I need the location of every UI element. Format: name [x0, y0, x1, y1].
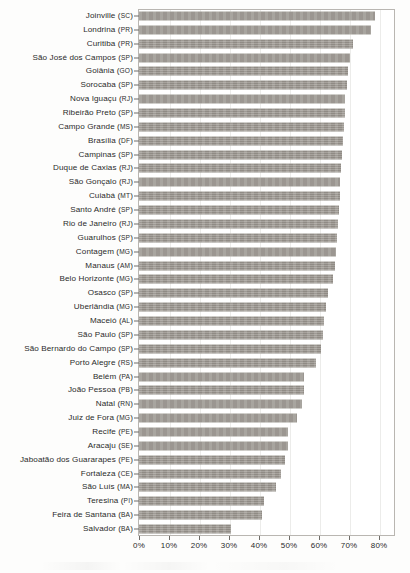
- bar-row: Santo André (SP): [0, 203, 410, 217]
- city-name: São Bernardo do Campo: [24, 344, 116, 353]
- bar: [139, 136, 343, 145]
- bar: [139, 219, 338, 228]
- x-tick-label: 20%: [191, 541, 207, 550]
- state-code: RJ: [122, 164, 130, 171]
- state-code: SP: [121, 151, 130, 158]
- x-tick-mark: [199, 536, 200, 540]
- city-name: Belém: [93, 371, 116, 380]
- city-name: Fortaleza: [81, 469, 116, 478]
- state-code: MT: [120, 192, 130, 199]
- city-name: Cuiabá: [89, 191, 115, 200]
- city-name: Manaus: [85, 261, 114, 270]
- bar-row: Natal (RN): [0, 397, 410, 411]
- bar-row: Fortaleza (CE): [0, 467, 410, 481]
- state-code: SP: [121, 234, 130, 241]
- category-label: Curitiba (PR): [87, 40, 133, 48]
- bar-row: Guarulhos (SP): [0, 231, 410, 245]
- bar: [139, 206, 339, 215]
- bar-row: Campinas (SP): [0, 148, 410, 162]
- city-name: Rio de Janeiro: [63, 219, 117, 228]
- bar: [139, 358, 316, 367]
- bar-row: São Luís (MA): [0, 481, 410, 495]
- bar: [139, 427, 288, 436]
- bar: [139, 344, 321, 353]
- category-label: Fortaleza (CE): [81, 470, 133, 478]
- bar: [139, 372, 304, 381]
- bar-row: São José dos Campos (SP): [0, 51, 410, 65]
- bar: [139, 330, 323, 339]
- state-code: SP: [121, 345, 130, 352]
- category-label: São José dos Campos (SP): [33, 53, 134, 61]
- bar-row: Londrina (PR): [0, 23, 410, 37]
- category-label: Sorocaba (SP): [80, 81, 133, 89]
- state-code: PA: [121, 372, 130, 379]
- state-code: DF: [121, 137, 130, 144]
- state-code: MG: [119, 275, 130, 282]
- x-tick-mark: [319, 536, 320, 540]
- category-label: Contagem (MG): [76, 248, 133, 256]
- city-name: Aracaju: [88, 441, 116, 450]
- x-tick-label: 30%: [221, 541, 237, 550]
- category-label: Cuiabá (MT): [89, 192, 133, 200]
- bar: [139, 400, 302, 409]
- state-code: PB: [121, 386, 130, 393]
- bar-row: Curitiba (PR): [0, 37, 410, 51]
- category-label: Nova Iguaçu (RJ): [70, 95, 133, 103]
- bar-row: Goiânia (GO): [0, 64, 410, 78]
- state-code: SE: [121, 442, 130, 449]
- state-code: MA: [120, 483, 130, 490]
- bar: [139, 67, 348, 76]
- x-tick-mark: [289, 536, 290, 540]
- category-label: Duque de Caxias (RJ): [53, 164, 133, 172]
- city-name: São José dos Campos: [33, 52, 116, 61]
- category-label: São Gonçalo (RJ): [69, 178, 133, 186]
- state-code: RN: [120, 400, 130, 407]
- state-code: BA: [121, 525, 130, 532]
- bar: [139, 469, 281, 478]
- category-label: Teresina (PI): [87, 497, 133, 505]
- x-tick-label: 0%: [133, 541, 145, 550]
- bar: [139, 122, 344, 131]
- x-tick-label: 40%: [251, 541, 267, 550]
- bar-row: São Paulo (SP): [0, 328, 410, 342]
- bar: [139, 386, 304, 395]
- bar: [139, 414, 297, 423]
- bar: [139, 109, 345, 118]
- bar-row: Cuiabá (MT): [0, 189, 410, 203]
- state-code: SC: [121, 12, 131, 19]
- state-code: SP: [121, 81, 130, 88]
- state-code: SP: [121, 331, 130, 338]
- city-name: Natal: [96, 399, 115, 408]
- bar: [139, 95, 345, 104]
- x-axis: 0%10%20%30%40%50%60%70%80%: [138, 536, 395, 566]
- bar-row: Contagem (MG): [0, 245, 410, 259]
- category-label: São Paulo (SP): [78, 331, 133, 339]
- bar: [139, 11, 375, 20]
- category-label: Recife (PE): [92, 428, 133, 436]
- x-tick-mark: [139, 536, 140, 540]
- bar-row: Belo Horizonte (MG): [0, 273, 410, 287]
- city-name: Teresina: [87, 496, 118, 505]
- state-code: MG: [119, 303, 130, 310]
- city-name: Campinas: [79, 150, 116, 159]
- city-name: Osasco: [88, 288, 116, 297]
- bar: [139, 497, 264, 506]
- category-label: Maceió (AL): [90, 317, 133, 325]
- bar: [139, 39, 353, 48]
- bar-rows: Joinville (SC)Londrina (PR)Curitiba (PR)…: [0, 9, 410, 536]
- state-code: MS: [120, 123, 130, 130]
- x-tick-mark: [229, 536, 230, 540]
- bar: [139, 192, 340, 201]
- bar: [139, 455, 285, 464]
- city-name: Contagem: [76, 247, 114, 256]
- category-label: Santo André (SP): [70, 206, 133, 214]
- category-label: Salvador (BA): [83, 525, 133, 533]
- x-tick-mark: [379, 536, 380, 540]
- bar: [139, 25, 371, 34]
- category-label: Goiânia (GO): [86, 67, 133, 75]
- category-label: Natal (RN): [96, 400, 133, 408]
- city-name: Jaboatão dos Guararapes: [20, 455, 116, 464]
- category-label: Londrina (PR): [83, 26, 133, 34]
- category-label: Feira de Santana (BA): [52, 511, 133, 519]
- city-name: São Paulo: [78, 330, 116, 339]
